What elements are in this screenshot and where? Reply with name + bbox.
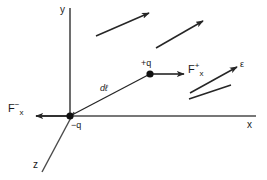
- negative-force-label: F−x: [8, 103, 23, 114]
- x-axis-label: x: [247, 120, 252, 130]
- positive-force-base: F: [188, 63, 195, 75]
- displacement-label: dℓ: [100, 84, 108, 93]
- negative-charge-dot: [66, 112, 73, 119]
- positive-charge-label: +q: [141, 59, 151, 68]
- z-axis-line: [42, 112, 74, 172]
- displacement-line: [70, 74, 150, 116]
- field-arrow-2: [156, 21, 203, 48]
- diagram-canvas: [0, 0, 267, 180]
- positive-force-subscript: x: [199, 69, 203, 78]
- negative-charge-label: −q: [71, 121, 81, 130]
- negative-force-base: F: [8, 102, 15, 114]
- positive-force-label: F+x: [188, 64, 203, 75]
- negative-force-subscript: x: [19, 108, 23, 117]
- physics-diagram-figure: y x z −q +q dℓ F+x F−x ε: [0, 0, 267, 180]
- field-label-epsilon: ε: [240, 60, 244, 69]
- field-line-4: [189, 85, 231, 99]
- field-arrow-1: [96, 13, 149, 36]
- z-axis-label: z: [33, 160, 38, 170]
- y-axis-label: y: [60, 5, 65, 15]
- positive-charge-dot: [146, 70, 153, 77]
